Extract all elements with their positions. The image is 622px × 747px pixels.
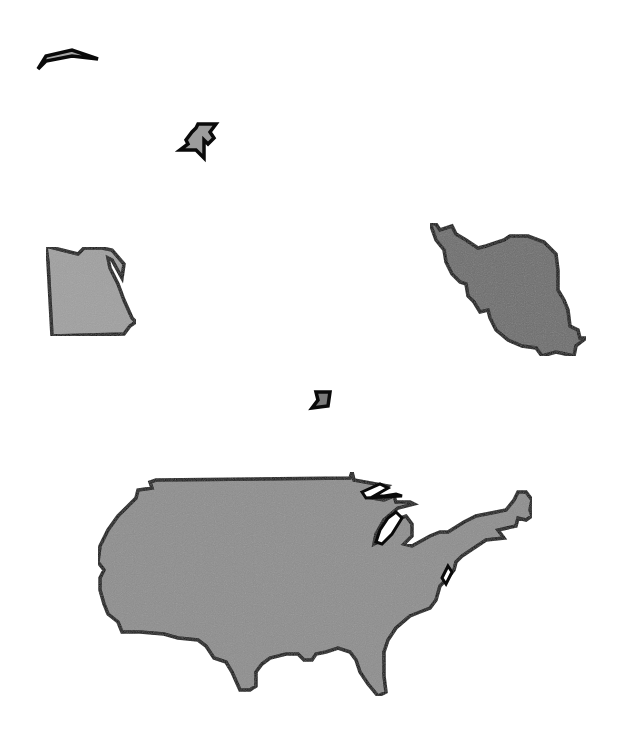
iran-shape — [430, 223, 586, 356]
fragment-top-left-shape — [38, 50, 98, 69]
silhouettes-canvas — [0, 0, 622, 747]
fragment-star-shape — [180, 124, 216, 158]
fragment-small-shape — [312, 392, 330, 408]
usa-shape — [98, 472, 532, 696]
egypt-shape — [46, 247, 136, 336]
